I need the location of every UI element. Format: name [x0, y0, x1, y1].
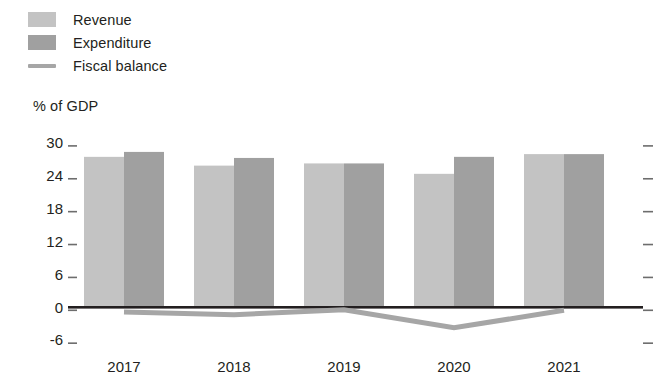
y-tick-mark-right — [643, 244, 653, 246]
fiscal-balance-line — [124, 310, 564, 328]
y-tick-mark — [68, 310, 77, 312]
bar-expenditure-2020 — [454, 157, 494, 307]
y-tick-mark — [68, 244, 77, 246]
y-tick-mark-right — [643, 145, 653, 147]
y-tick-mark-right — [643, 178, 653, 180]
x-tick-label-2019: 2019 — [327, 358, 360, 375]
y-tick-mark-right — [643, 211, 653, 213]
y-axis-ticks-right — [643, 145, 653, 344]
y-axis-ticks-left: 3024181260-6 — [46, 134, 77, 348]
x-axis-labels: 20172018201920202021 — [107, 358, 580, 375]
y-tick-mark — [68, 211, 77, 213]
fiscal-chart-figure: Revenue Expenditure Fiscal balance % of … — [0, 0, 667, 391]
y-tick-mark — [68, 145, 77, 147]
bar-expenditure-2018 — [234, 158, 274, 307]
x-tick-label-2018: 2018 — [217, 358, 250, 375]
y-tick-mark-right — [643, 277, 653, 279]
y-tick-label: 12 — [46, 233, 63, 250]
y-tick-mark — [68, 342, 77, 344]
y-tick-label: 0 — [55, 299, 63, 316]
zero-axis-line-group — [68, 306, 643, 309]
y-tick-mark-right — [643, 342, 653, 344]
y-tick-label: 6 — [55, 266, 63, 283]
bar-expenditure-2019 — [344, 163, 384, 307]
x-tick-label-2021: 2021 — [547, 358, 580, 375]
bar-revenue-2017 — [84, 157, 124, 307]
x-tick-label-2017: 2017 — [107, 358, 140, 375]
y-tick-label: -6 — [50, 331, 63, 348]
y-tick-mark — [68, 178, 77, 180]
bar-revenue-2021 — [524, 154, 564, 307]
y-tick-mark — [68, 277, 77, 279]
bar-expenditure-2017 — [124, 152, 164, 307]
bar-revenue-2020 — [414, 174, 454, 307]
chart-plot-area: 3024181260-6 20172018201920202021 — [0, 0, 667, 391]
y-tick-label: 30 — [46, 134, 63, 151]
x-tick-label-2020: 2020 — [437, 358, 470, 375]
fiscal-balance-line-group — [124, 310, 564, 328]
y-tick-mark-right — [643, 310, 653, 312]
bar-revenue-2018 — [194, 166, 234, 307]
y-tick-label: 24 — [46, 167, 63, 184]
bars-group — [84, 152, 604, 307]
y-tick-label: 18 — [46, 200, 63, 217]
bar-expenditure-2021 — [564, 154, 604, 307]
bar-revenue-2019 — [304, 163, 344, 307]
zero-axis-line — [68, 306, 643, 309]
